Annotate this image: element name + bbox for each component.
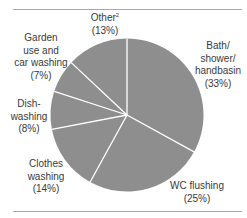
label-text: Garden [10,32,72,45]
label-text: car washing [10,57,72,70]
footnote-marker: 2 [116,12,119,18]
label-text: WC flushing [160,180,234,193]
label-dish: Dish- washing (8%) [6,98,52,136]
label-text-with-footnote: Other2 [80,12,130,25]
label-text: Dish- [6,98,52,111]
label-clothes: Clothes washing (14%) [23,158,69,196]
label-percent: (25%) [160,193,234,206]
label-percent: (14%) [23,183,69,196]
label-text: use and [10,45,72,58]
label-text: Bath/ [187,40,247,53]
label-percent: (8%) [6,123,52,136]
label-percent: (7%) [10,70,72,83]
label-percent: (33%) [187,78,247,91]
label-text: shower/ [187,53,247,66]
label-bath: Bath/ shower/ handbasin (33%) [187,40,247,90]
label-other: Other2 (13%) [80,12,130,37]
label-percent: (13%) [80,25,130,38]
label-text: washing [6,111,52,124]
label-text: Clothes [23,158,69,171]
label-wc: WC flushing (25%) [160,180,234,205]
label-text: Other [91,12,116,23]
label-text: washing [23,171,69,184]
label-garden: Garden use and car washing (7%) [10,32,72,82]
label-text: handbasin [187,65,247,78]
pie-chart-figure: Bath/ shower/ handbasin (33%) WC flushin… [0,0,247,218]
